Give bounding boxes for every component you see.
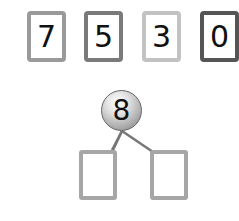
whole-value: 8 [113, 97, 131, 125]
right-bond-line [122, 131, 153, 152]
part-box-left[interactable] [79, 150, 117, 200]
whole-number-ball: 8 [101, 90, 142, 131]
part-box-right[interactable] [150, 150, 188, 200]
